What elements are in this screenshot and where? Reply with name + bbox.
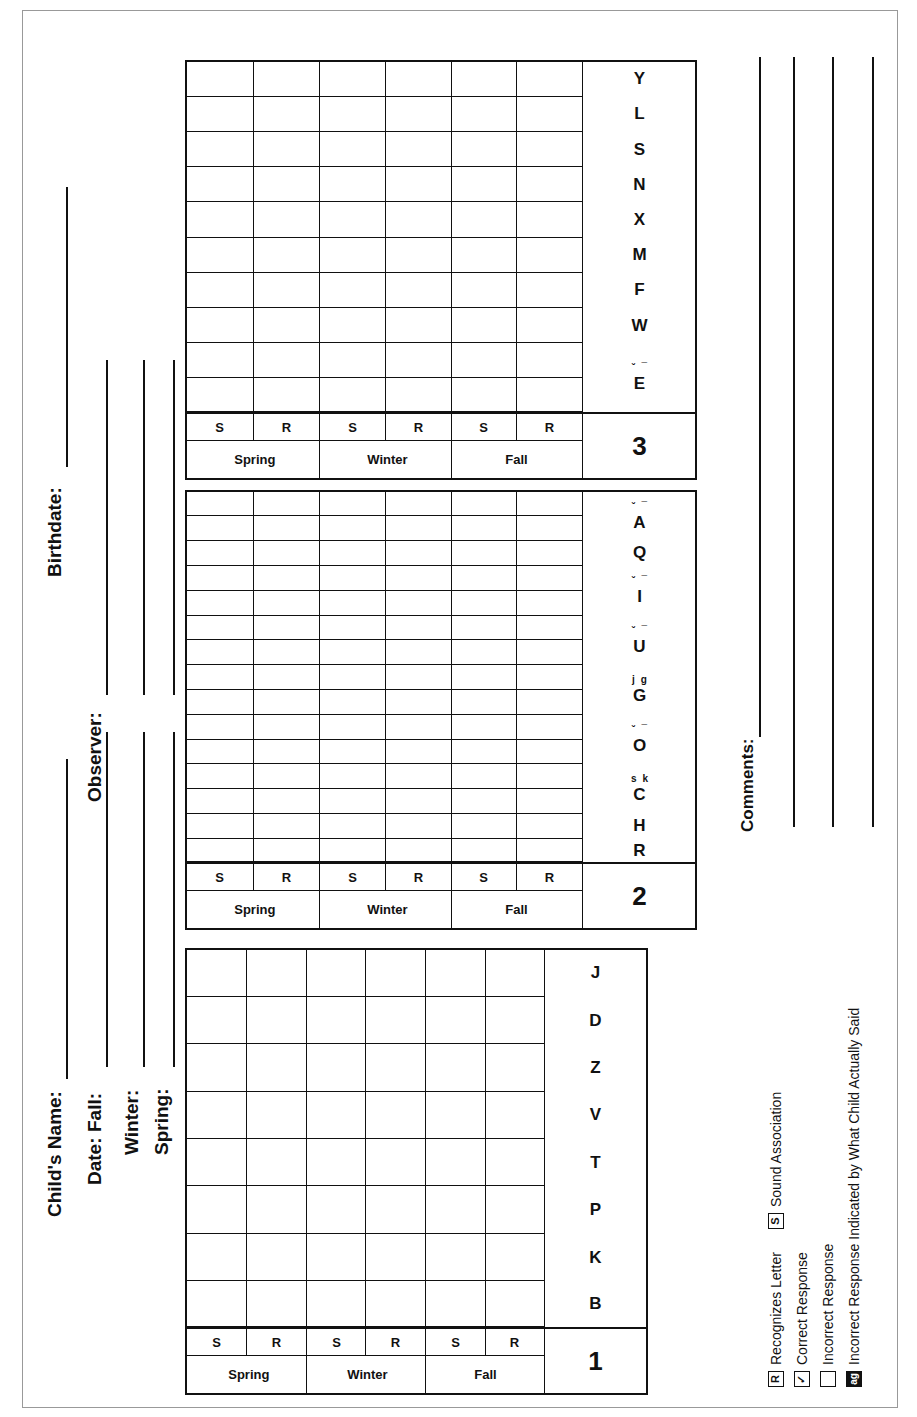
response-cell-e-fall-r[interactable] xyxy=(517,343,583,378)
response-cell-t-fall-r[interactable] xyxy=(485,1139,545,1186)
response-cell-b-spring-r[interactable] xyxy=(247,1281,307,1328)
response-cell-u-winter-s[interactable] xyxy=(319,615,385,640)
response-cell-e-winter-s[interactable] xyxy=(319,343,385,378)
observer-field-2[interactable] xyxy=(143,360,145,695)
response-cell-a-winter-r[interactable] xyxy=(385,516,451,541)
response-cell-o-spring-r[interactable] xyxy=(253,739,319,764)
response-cell-y-winter-s[interactable] xyxy=(319,61,385,96)
response-cell-g-fall-r[interactable] xyxy=(517,665,583,690)
response-cell-w-spring-s[interactable] xyxy=(186,307,253,342)
response-cell-e-fall-s[interactable] xyxy=(451,378,517,413)
response-cell-q-winter-s[interactable] xyxy=(319,541,385,566)
response-cell-w-fall-r[interactable] xyxy=(517,307,583,342)
response-cell-d-spring-r[interactable] xyxy=(247,996,307,1043)
response-cell-z-fall-s[interactable] xyxy=(426,1044,486,1091)
response-cell-a-fall-r[interactable] xyxy=(517,491,583,516)
response-cell-l-fall-r[interactable] xyxy=(517,96,583,131)
response-cell-p-fall-s[interactable] xyxy=(426,1186,486,1233)
response-cell-o-fall-r[interactable] xyxy=(517,714,583,739)
response-cell-k-spring-r[interactable] xyxy=(247,1233,307,1280)
response-cell-p-winter-s[interactable] xyxy=(306,1186,366,1233)
response-cell-o-winter-s[interactable] xyxy=(319,739,385,764)
response-cell-g-winter-s[interactable] xyxy=(319,689,385,714)
response-cell-z-spring-r[interactable] xyxy=(247,1044,307,1091)
response-cell-e-winter-s[interactable] xyxy=(319,378,385,413)
response-cell-h-winter-r[interactable] xyxy=(385,813,451,838)
response-cell-i-fall-r[interactable] xyxy=(517,590,583,615)
childs-name-field[interactable] xyxy=(66,759,68,1079)
response-cell-c-spring-s[interactable] xyxy=(186,789,253,814)
response-cell-c-winter-r[interactable] xyxy=(385,764,451,789)
response-cell-p-spring-s[interactable] xyxy=(186,1186,247,1233)
response-cell-t-spring-s[interactable] xyxy=(186,1139,247,1186)
date-winter-field[interactable] xyxy=(143,732,145,1067)
response-cell-r-spring-r[interactable] xyxy=(253,838,319,863)
response-cell-w-spring-r[interactable] xyxy=(253,307,319,342)
response-cell-v-spring-s[interactable] xyxy=(186,1091,247,1138)
response-cell-x-fall-r[interactable] xyxy=(517,202,583,237)
observer-field-3[interactable] xyxy=(173,360,175,695)
observer-field-1[interactable] xyxy=(106,360,108,695)
date-spring-field[interactable] xyxy=(173,732,175,1067)
response-cell-c-spring-r[interactable] xyxy=(253,789,319,814)
response-cell-n-fall-s[interactable] xyxy=(451,167,517,202)
response-cell-w-winter-r[interactable] xyxy=(385,307,451,342)
response-cell-w-winter-s[interactable] xyxy=(319,307,385,342)
response-cell-v-fall-s[interactable] xyxy=(426,1091,486,1138)
response-cell-x-spring-s[interactable] xyxy=(186,202,253,237)
response-cell-v-spring-r[interactable] xyxy=(247,1091,307,1138)
comments-line-2[interactable] xyxy=(793,57,795,827)
response-cell-o-fall-s[interactable] xyxy=(451,739,517,764)
response-cell-c-spring-r[interactable] xyxy=(253,764,319,789)
response-cell-b-winter-r[interactable] xyxy=(366,1281,426,1328)
response-cell-d-winter-s[interactable] xyxy=(306,996,366,1043)
response-cell-a-fall-r[interactable] xyxy=(517,516,583,541)
response-cell-f-spring-s[interactable] xyxy=(186,272,253,307)
response-cell-x-spring-r[interactable] xyxy=(253,202,319,237)
response-cell-r-fall-r[interactable] xyxy=(517,838,583,863)
response-cell-q-fall-s[interactable] xyxy=(451,541,517,566)
response-cell-y-spring-s[interactable] xyxy=(186,61,253,96)
response-cell-e-fall-r[interactable] xyxy=(517,378,583,413)
response-cell-c-fall-s[interactable] xyxy=(451,789,517,814)
response-cell-h-spring-r[interactable] xyxy=(253,813,319,838)
birthdate-field[interactable] xyxy=(66,187,68,467)
response-cell-k-spring-s[interactable] xyxy=(186,1233,247,1280)
response-cell-z-winter-r[interactable] xyxy=(366,1044,426,1091)
response-cell-m-spring-s[interactable] xyxy=(186,237,253,272)
response-cell-f-winter-s[interactable] xyxy=(319,272,385,307)
response-cell-k-fall-r[interactable] xyxy=(485,1233,545,1280)
response-cell-k-fall-s[interactable] xyxy=(426,1233,486,1280)
response-cell-s-fall-r[interactable] xyxy=(517,132,583,167)
response-cell-t-fall-s[interactable] xyxy=(426,1139,486,1186)
response-cell-o-winter-r[interactable] xyxy=(385,714,451,739)
response-cell-a-fall-s[interactable] xyxy=(451,491,517,516)
response-cell-l-spring-s[interactable] xyxy=(186,96,253,131)
response-cell-r-fall-s[interactable] xyxy=(451,838,517,863)
response-cell-e-spring-r[interactable] xyxy=(253,343,319,378)
response-cell-c-fall-r[interactable] xyxy=(517,764,583,789)
response-cell-u-winter-s[interactable] xyxy=(319,640,385,665)
date-fall-field[interactable] xyxy=(106,732,108,1067)
response-cell-i-fall-s[interactable] xyxy=(451,565,517,590)
response-cell-z-winter-s[interactable] xyxy=(306,1044,366,1091)
response-cell-a-winter-s[interactable] xyxy=(319,491,385,516)
response-cell-z-fall-r[interactable] xyxy=(485,1044,545,1091)
response-cell-c-fall-s[interactable] xyxy=(451,764,517,789)
response-cell-o-fall-s[interactable] xyxy=(451,714,517,739)
response-cell-o-spring-s[interactable] xyxy=(186,714,253,739)
response-cell-u-spring-s[interactable] xyxy=(186,615,253,640)
response-cell-h-fall-s[interactable] xyxy=(451,813,517,838)
response-cell-f-fall-s[interactable] xyxy=(451,272,517,307)
response-cell-a-fall-s[interactable] xyxy=(451,516,517,541)
response-cell-i-fall-s[interactable] xyxy=(451,590,517,615)
response-cell-u-winter-r[interactable] xyxy=(385,615,451,640)
comments-line-4[interactable] xyxy=(872,57,874,827)
response-cell-e-fall-s[interactable] xyxy=(451,343,517,378)
response-cell-z-spring-s[interactable] xyxy=(186,1044,247,1091)
response-cell-x-fall-s[interactable] xyxy=(451,202,517,237)
response-cell-u-fall-s[interactable] xyxy=(451,640,517,665)
response-cell-d-fall-r[interactable] xyxy=(485,996,545,1043)
response-cell-h-spring-s[interactable] xyxy=(186,813,253,838)
response-cell-f-winter-r[interactable] xyxy=(385,272,451,307)
